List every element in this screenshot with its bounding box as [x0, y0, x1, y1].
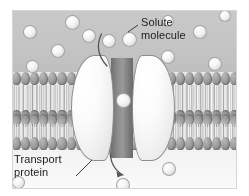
protein-label-leader — [76, 160, 92, 176]
diagram-canvas: Solute molecule Transport protein — [0, 0, 249, 196]
solute-molecule-label: Solute molecule — [141, 16, 186, 41]
solute-label-leader — [128, 25, 138, 32]
solute-influx-arrow — [98, 34, 107, 66]
solute-efflux-arrow — [110, 150, 123, 175]
transport-protein-label: Transport protein — [14, 153, 62, 178]
